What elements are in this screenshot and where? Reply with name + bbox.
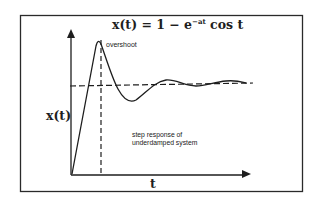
response-curve [72,41,246,174]
step-response-diagram: x(t) = 1 − e−at cos t overshoot x(t) ste… [0,0,313,199]
x-axis-arrow-icon [242,170,251,178]
overshoot-label: overshoot [106,41,137,48]
diagram-canvas: x(t) = 1 − e−at cos t overshoot x(t) ste… [0,0,313,199]
y-axis-label: x(t) [46,108,71,123]
y-axis-arrow-icon [67,29,75,38]
caption-line-1: step response of [132,131,182,139]
title-equation: x(t) = 1 − e−at cos t [112,17,243,32]
steady-state-line [70,83,253,86]
x-axis-label: t [150,176,156,191]
caption-line-2: underdamped system [132,139,198,147]
x-axis [71,170,251,178]
frame-border [21,16,303,192]
y-axis [67,29,75,175]
